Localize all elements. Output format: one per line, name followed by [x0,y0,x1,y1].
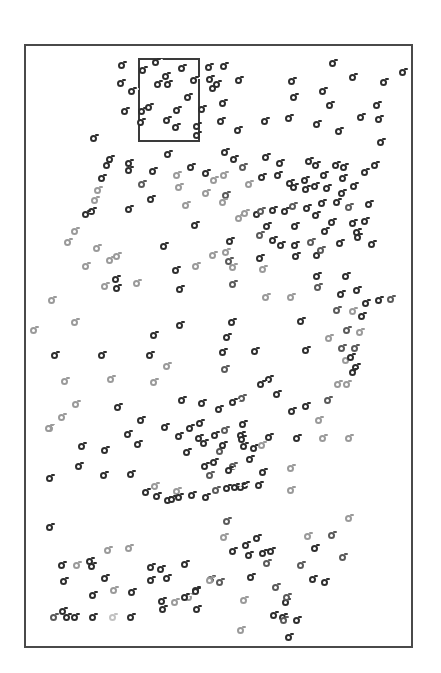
marker-tail [103,174,107,176]
marker-tail [380,115,384,117]
marker-tail [231,237,235,239]
marker-tail [344,174,348,176]
marker-tail [132,470,136,472]
marker-tail [83,442,87,444]
marker-tail [126,107,130,109]
marker-tail [245,442,249,444]
marker-tail [180,183,184,185]
marker-tail [112,375,116,377]
marker-tail [284,613,288,615]
marker-tail [250,180,254,182]
marker-tail [245,596,249,598]
marker-tail [186,593,190,595]
marker-tail [292,464,296,466]
marker-tail [156,482,160,484]
marker-tail [169,80,173,82]
marker-tail [261,231,265,233]
marker-tail [130,205,134,207]
marker-tail [324,434,328,436]
marker-tail [180,493,184,495]
marker-tail [183,64,187,66]
marker-tail [51,474,55,476]
marker-tail [192,163,196,165]
marker-tail [340,127,344,129]
marker-tail [51,523,55,525]
marker-tail [316,182,320,184]
marker-tail [143,180,147,182]
marker-tail [354,73,358,75]
marker-tail [154,167,158,169]
marker-tail [326,578,330,580]
marker-tail [352,353,356,355]
marker-tail [274,206,278,208]
marker-tail [214,251,218,253]
marker-tail [262,207,266,209]
marker-tail [220,405,224,407]
marker-tail [319,283,323,285]
marker-tail [270,433,274,435]
marker-tail [234,263,238,265]
marker-tail [178,106,182,108]
marker-tail [261,254,265,256]
marker-tail [64,607,68,609]
marker-tail [296,241,300,243]
marker-tail [195,76,199,78]
marker-tail [164,605,168,607]
marker-tail [380,296,384,298]
marker-tail [217,486,221,488]
marker-tail [294,202,298,204]
marker-tail [226,365,230,367]
marker-tail [227,191,231,193]
marker-tail [108,161,112,163]
marker-tail [205,439,209,441]
marker-tail [197,262,201,264]
marker-tail [359,233,363,235]
marker-tail [328,184,332,186]
marker-tail [130,159,134,161]
marker-tail [130,166,134,168]
marker-tail [152,195,156,197]
marker-tail [338,198,342,200]
marker-tail [363,312,367,314]
marker-tail [256,347,260,349]
marker-tail [224,441,228,443]
marker-tail [181,285,185,287]
marker-tail [117,275,121,277]
marker-tail [159,80,163,82]
marker-tail [191,424,195,426]
marker-tail [87,262,91,264]
marker-tail [339,380,343,382]
marker-tail [95,134,99,136]
marker-tail [307,346,311,348]
marker-tail [228,517,232,519]
marker-tail [306,176,310,178]
marker-tail [246,209,250,211]
marker-tail [147,488,151,490]
marker-tail [342,290,346,292]
marker-tail [345,163,349,165]
marker-tail [267,153,271,155]
marker-tail [93,207,97,209]
marker-tail [196,221,200,223]
marker-tail [350,434,354,436]
marker-tail [314,575,318,577]
marker-tail [392,295,396,297]
marker-tail [178,487,182,489]
marker-tail [337,161,341,163]
marker-tail [292,486,296,488]
marker-tail [278,390,282,392]
marker-tail [53,296,57,298]
marker-tail [138,279,142,281]
marker-tail [317,211,321,213]
marker-tail [347,272,351,274]
marker-tail [385,78,389,80]
marker-tail [233,318,237,320]
marker-tail [150,103,154,105]
marker-tail [270,375,274,377]
marker-tail [139,440,143,442]
marker-tail [166,423,170,425]
marker-tail [279,171,283,173]
marker-tail [322,246,326,248]
marker-tail [230,466,234,468]
marker-tail [69,238,73,240]
